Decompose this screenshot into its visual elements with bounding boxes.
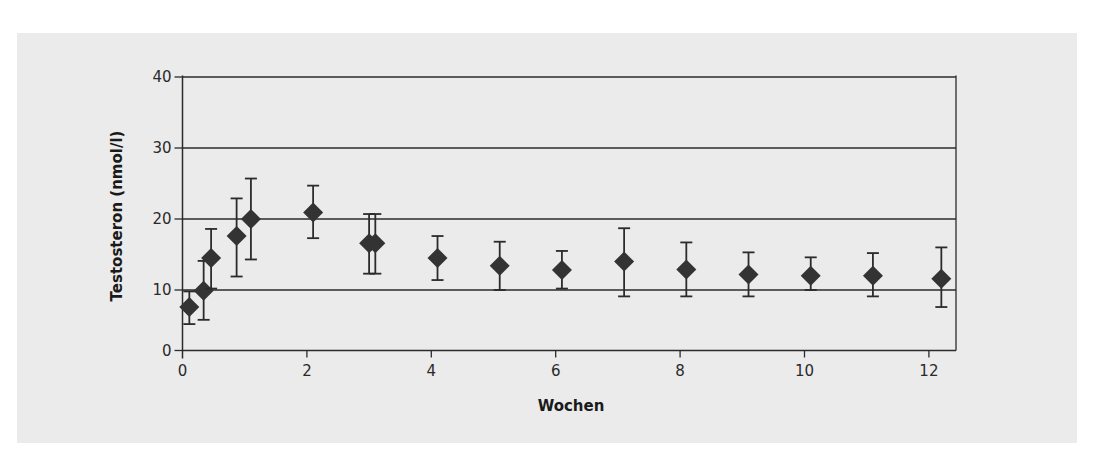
y-tick-label: 40 — [152, 68, 171, 86]
chart: 010203040 024681012 Wochen Testosteron (… — [0, 0, 1099, 464]
x-tick-label: 12 — [919, 362, 938, 380]
x-tick-label: 10 — [795, 362, 814, 380]
figure-panel — [17, 33, 1077, 443]
x-tick-label: 2 — [302, 362, 312, 380]
x-tick-label: 6 — [551, 362, 561, 380]
y-tick-label: 30 — [152, 139, 171, 157]
y-tick-label: 20 — [152, 210, 171, 228]
y-axis-title: Testosteron (nmol/l) — [108, 131, 126, 302]
x-tick-label: 0 — [178, 362, 188, 380]
x-tick-label: 8 — [675, 362, 685, 380]
y-tick-label: 10 — [152, 281, 171, 299]
x-axis-title: Wochen — [538, 397, 605, 415]
y-tick-label: 0 — [162, 342, 172, 360]
x-tick-label: 4 — [427, 362, 437, 380]
